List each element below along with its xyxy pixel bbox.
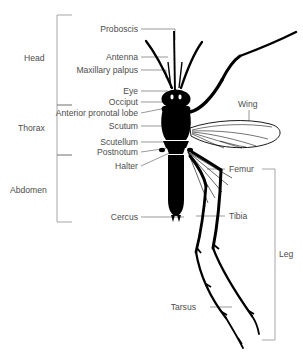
bracket-abdomen: [57, 155, 72, 222]
label-tarsus: Tarsus: [171, 302, 196, 312]
proboscis-part: [174, 31, 175, 92]
label-scutum: Scutum: [109, 121, 138, 131]
midleg-tibia-part: [213, 170, 221, 248]
antenna-right-part: [181, 42, 202, 88]
label-tibia: Tibia: [229, 211, 248, 221]
label-maxillary-palpus: Maxillary palpus: [76, 65, 138, 75]
label-wing: Wing: [238, 99, 258, 109]
diagram-canvas: Head Thorax Abdomen Leg Proboscis Antenn…: [0, 0, 303, 363]
abdomen-part: [168, 155, 184, 216]
label-femur: Femur: [229, 164, 254, 174]
foreleg-tarsus-part: [240, 32, 296, 56]
hindleg-tibia-part: [196, 186, 206, 252]
hindleg-tarsus-part: [196, 252, 226, 318]
leg-bracket-group: [262, 169, 275, 340]
region-label-head: Head: [24, 53, 45, 63]
label-anterior-pronotal-lobe: Anterior pronotal lobe: [56, 108, 138, 118]
bracket-head: [57, 15, 72, 105]
bracket-leg: [262, 169, 275, 340]
foreleg-tibia-part: [222, 56, 240, 80]
label-cercus: Cercus: [111, 212, 138, 222]
label-eye: Eye: [123, 86, 138, 96]
hindleg-tarsus-tip: [226, 318, 243, 348]
mosquito-illustration: [146, 31, 296, 348]
region-label-abdomen: Abdomen: [10, 185, 47, 195]
label-halter: Halter: [115, 161, 138, 171]
label-occiput: Occiput: [109, 97, 139, 107]
halter-left-part: [159, 148, 165, 152]
label-antenna: Antenna: [106, 52, 138, 62]
midleg-joint-ring-1: [214, 245, 219, 249]
midleg-tarsus-part: [213, 248, 252, 316]
eye-part: [162, 90, 191, 109]
wing-base-ray-1: [188, 152, 232, 178]
occiput-part: [170, 95, 173, 100]
occiput-highlight: [178, 95, 181, 100]
label-proboscis: Proboscis: [100, 24, 138, 34]
label-postnotum: Postnotum: [97, 147, 138, 157]
leader-proboscis: [141, 29, 175, 40]
cercus-right-part: [177, 215, 181, 222]
mosquito-anatomy-diagram: Head Thorax Abdomen Leg Proboscis Antenn…: [0, 0, 303, 363]
body-region-brackets: [57, 15, 72, 222]
label-scutellum: Scutellum: [100, 137, 138, 147]
midleg-tarsus-tip: [252, 316, 259, 334]
scutellum-part: [163, 141, 189, 148]
leader-maxillary-palpus: [141, 70, 166, 78]
region-label-thorax: Thorax: [18, 123, 45, 133]
foreleg-femur-part: [190, 80, 222, 112]
cercus-left-part: [171, 215, 175, 222]
region-label-leg: Leg: [279, 249, 294, 259]
